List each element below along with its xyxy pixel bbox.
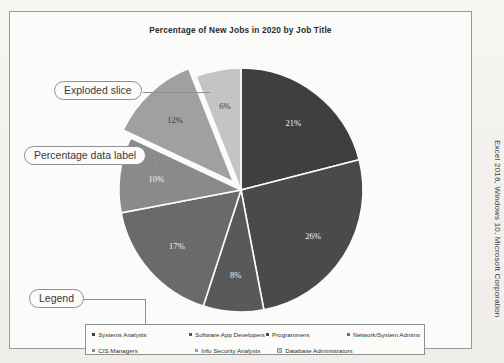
pie-data-label: 6% bbox=[219, 101, 230, 111]
figure-frame: Percentage of New Jobs in 2020 by Job Ti… bbox=[9, 11, 472, 349]
legend-swatch-icon bbox=[266, 333, 269, 336]
source-caption: Excel 2016, Windows 10, Microsoft Corpor… bbox=[493, 140, 502, 318]
legend-label: Systems Analysts bbox=[98, 331, 146, 338]
leader-line-exploded bbox=[143, 92, 210, 93]
legend-item-systems-analysts[interactable]: Systems Analysts bbox=[92, 331, 189, 338]
legend-item-info-security-analysts[interactable]: Info Security Analysts bbox=[195, 347, 277, 354]
legend-label: CIS Managers bbox=[98, 347, 138, 354]
legend-item-database-administrators[interactable]: Database Administrators bbox=[277, 347, 353, 354]
legend-label: Programmers bbox=[272, 331, 309, 338]
legend-label: Software App Developers bbox=[195, 331, 265, 338]
pie-data-label: 12% bbox=[167, 115, 183, 125]
legend-label: Info Security Analysts bbox=[201, 347, 260, 354]
pie-data-label: 21% bbox=[285, 118, 301, 128]
legend-label: Database Administrators bbox=[285, 347, 352, 354]
legend-row-1: Systems Analysts Software App Developers… bbox=[92, 328, 420, 341]
chart-legend[interactable]: Systems Analysts Software App Developers… bbox=[85, 324, 425, 355]
legend-swatch-icon bbox=[277, 348, 282, 353]
legend-item-software-app-developers[interactable]: Software App Developers bbox=[189, 331, 266, 338]
callout-legend: Legend bbox=[29, 289, 84, 308]
leader-line-datalabel-drop bbox=[155, 157, 156, 167]
legend-item-network-system-admins[interactable]: Network/System Admins bbox=[347, 331, 420, 338]
pie-data-label: 17% bbox=[169, 241, 185, 251]
legend-label: Network/System Admins bbox=[353, 331, 420, 338]
leader-line-legend-drop bbox=[145, 299, 146, 325]
pie-data-label: 26% bbox=[305, 231, 321, 241]
legend-swatch-icon bbox=[92, 333, 95, 336]
callout-percentage-data-label: Percentage data label bbox=[24, 146, 146, 165]
pie-data-label: 8% bbox=[230, 270, 241, 280]
legend-item-programmers[interactable]: Programmers bbox=[266, 331, 347, 338]
callout-exploded-slice: Exploded slice bbox=[54, 81, 142, 100]
legend-swatch-icon bbox=[195, 349, 198, 352]
legend-swatch-icon bbox=[189, 333, 192, 336]
legend-swatch-icon bbox=[347, 333, 350, 336]
legend-item-cis-managers[interactable]: CIS Managers bbox=[92, 347, 195, 354]
legend-swatch-icon bbox=[92, 349, 95, 352]
pie-data-label: 10% bbox=[148, 174, 164, 184]
legend-row-2: CIS Managers Info Security Analysts Data… bbox=[92, 344, 420, 357]
